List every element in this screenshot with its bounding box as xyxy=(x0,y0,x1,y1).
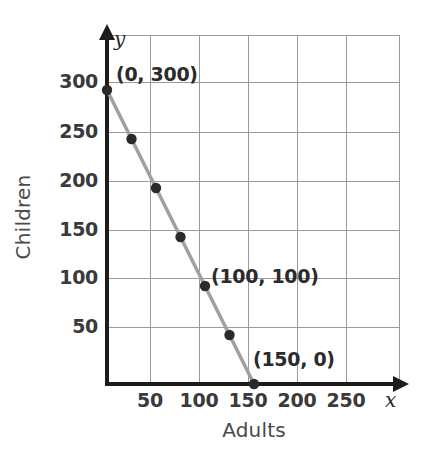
data-series-layer xyxy=(0,0,425,464)
data-point-25-250 xyxy=(126,134,136,144)
point-annotation-1: (100, 100) xyxy=(211,265,319,287)
data-point-100-100 xyxy=(200,281,210,291)
data-point-0-300 xyxy=(102,85,112,95)
data-point-150-0 xyxy=(249,379,259,389)
data-point-75-150 xyxy=(175,232,185,242)
point-annotation-0: (0, 300) xyxy=(116,63,198,85)
data-point-125-50 xyxy=(224,330,234,340)
data-point-50-200 xyxy=(151,183,161,193)
point-annotation-2: (150, 0) xyxy=(253,348,335,370)
coordinate-graph-figure: y x 50 100 150 200 250 300 250 200 150 1… xyxy=(0,0,425,464)
